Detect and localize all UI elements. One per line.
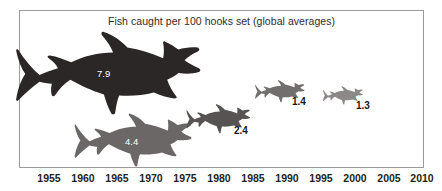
x-axis-tick-1995: 1995	[309, 172, 332, 184]
chart-title: Fish caught per 100 hooks set (global av…	[19, 15, 424, 27]
x-axis-tick-2000: 2000	[343, 172, 366, 184]
x-axis-tick-1990: 1990	[275, 172, 298, 184]
x-axis-tick-1955: 1955	[37, 172, 60, 184]
x-axis-tick-1960: 1960	[71, 172, 94, 184]
x-axis-tick-1985: 1985	[241, 172, 264, 184]
chart-figure: Fish caught per 100 hooks set (global av…	[0, 0, 442, 191]
x-axis-tick-2005: 2005	[377, 172, 400, 184]
plot-frame	[19, 10, 424, 168]
x-axis-tick-2010: 2010	[410, 172, 433, 184]
x-axis: 1955196019651970197519801985199019952000…	[0, 172, 442, 191]
x-axis-tick-1970: 1970	[139, 172, 162, 184]
x-axis-tick-1965: 1965	[105, 172, 128, 184]
x-axis-tick-1980: 1980	[207, 172, 230, 184]
x-axis-tick-1975: 1975	[173, 172, 196, 184]
